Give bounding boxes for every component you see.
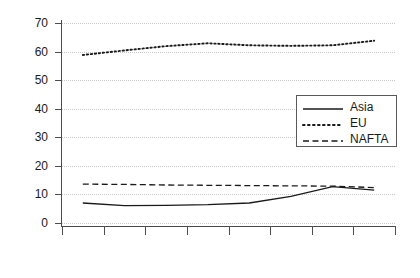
x-axis-tick [187, 226, 188, 235]
x-axis-tick [104, 226, 105, 235]
y-axis-tick [55, 223, 62, 224]
legend-swatch-eu [302, 117, 344, 129]
y-axis-label: 40 [12, 103, 48, 115]
legend-label-asia: Asia [350, 101, 373, 113]
y-axis-label: 20 [12, 160, 48, 172]
legend-item-asia[interactable]: Asia [297, 99, 398, 115]
y-axis-label: 0 [12, 217, 48, 229]
x-axis-tick [145, 226, 146, 235]
legend-item-nafta[interactable]: NAFTA [297, 131, 398, 147]
x-axis-tick [229, 226, 230, 235]
y-axis-label: 50 [12, 74, 48, 86]
y-axis-tick [55, 137, 62, 138]
y-axis-tick [55, 23, 62, 24]
x-axis-tick [62, 226, 63, 235]
legend-label-nafta: NAFTA [350, 133, 388, 145]
y-axis-label: 30 [12, 131, 48, 143]
legend: AsiaEUNAFTA [296, 95, 397, 147]
series-line-asia [83, 187, 374, 206]
y-axis-tick [55, 166, 62, 167]
y-axis-tick [55, 194, 62, 195]
x-axis-tick [270, 226, 271, 235]
y-axis-tick [55, 52, 62, 53]
y-axis-label: 70 [12, 17, 48, 29]
line-chart: 010203040506070 200120022003200420052006… [0, 0, 420, 278]
x-axis-tick [395, 226, 396, 235]
gridline [62, 223, 395, 224]
y-axis-tick [55, 80, 62, 81]
legend-swatch-nafta [302, 133, 344, 145]
x-axis-tick [353, 226, 354, 235]
legend-label-eu: EU [350, 117, 367, 129]
x-axis-tick [312, 226, 313, 235]
y-axis-tick [55, 109, 62, 110]
legend-swatch-asia [302, 101, 344, 113]
legend-item-eu[interactable]: EU [297, 115, 398, 131]
y-axis-label: 60 [12, 46, 48, 58]
y-axis-label: 10 [12, 188, 48, 200]
series-line-eu [83, 41, 374, 55]
